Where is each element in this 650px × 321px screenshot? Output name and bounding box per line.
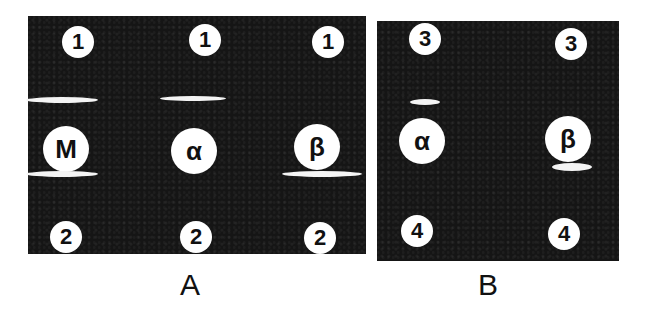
well-alpha: α <box>171 128 217 174</box>
well-M: M <box>43 126 89 172</box>
well-beta: β <box>545 116 591 162</box>
well-2-center: 2 <box>180 221 212 253</box>
well-3-right: 3 <box>555 28 587 60</box>
gel-panel-b: 3 3 α β 4 4 <box>377 21 619 261</box>
well-1-center: 1 <box>189 24 221 56</box>
panel-label-a: A <box>180 268 200 302</box>
well-2-right: 2 <box>304 222 336 254</box>
well-alpha: α <box>399 118 445 164</box>
precipitin-band-alpha-upper <box>160 96 226 101</box>
precipitin-band-M-lower <box>26 171 98 177</box>
panel-label-b: B <box>478 268 498 302</box>
precipitin-band-M-upper <box>26 97 98 103</box>
precipitin-band-beta-lower <box>552 163 592 171</box>
well-1-right: 1 <box>312 26 344 58</box>
precipitin-band-beta-lower <box>282 171 362 177</box>
well-4-right: 4 <box>548 218 580 250</box>
well-3-left: 3 <box>409 23 441 55</box>
gel-panel-a: 1 1 1 M α β 2 2 2 <box>28 16 366 254</box>
well-4-left: 4 <box>401 215 433 247</box>
precipitin-band-alpha-upper <box>410 99 440 105</box>
well-2-left: 2 <box>50 221 82 253</box>
well-1-left: 1 <box>62 26 94 58</box>
well-beta: β <box>294 124 340 170</box>
